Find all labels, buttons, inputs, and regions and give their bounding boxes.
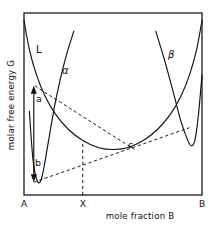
label-alpha: α (62, 65, 69, 76)
y-axis-title: molar free energy G (6, 60, 16, 150)
upper-tangent-line (35, 86, 135, 150)
label-liquid: L (36, 44, 42, 55)
label-point-c: c (128, 139, 133, 150)
x-tick-a: A (21, 199, 28, 209)
beta-curve (156, 31, 202, 146)
x-tick-x: X (80, 199, 86, 209)
free-energy-diagram: L α β a b c A X B mole fraction B molar … (0, 0, 211, 233)
label-beta: β (167, 49, 175, 60)
x-tick-b: B (199, 199, 205, 209)
label-point-b: b (35, 157, 41, 168)
label-point-a: a (36, 93, 42, 104)
x-axis-title: mole fraction B (106, 211, 175, 221)
diagram-canvas: L α β a b c A X B mole fraction B molar … (0, 0, 211, 233)
common-tangent-line (34, 128, 190, 183)
plot-frame (24, 13, 202, 195)
